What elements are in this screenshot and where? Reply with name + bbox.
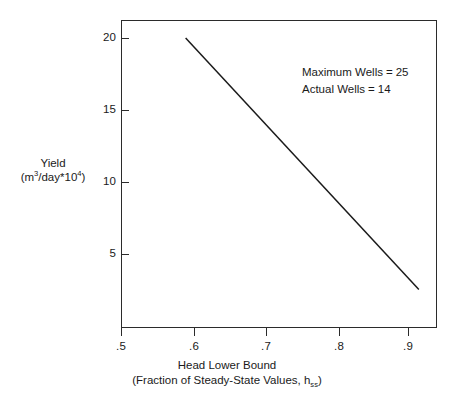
y-tick-15: [121, 110, 129, 111]
x-axis-title-line2: (Fraction of Steady-State Values, hss): [0, 373, 454, 388]
y-tick-label-20: 20: [82, 32, 116, 44]
annotation-value-maximum-wells: 25: [396, 66, 409, 78]
y-axis-title: Yield (m3/day*104): [6, 156, 100, 184]
x-tick-0.7: [266, 328, 267, 336]
x-tick-label-0.6: .6: [174, 340, 214, 352]
x-tick-label-0.8: .8: [319, 340, 359, 352]
x-axis-title-subscript: ss: [310, 380, 318, 389]
y-tick-label-20-wrap: 20: [82, 32, 116, 44]
annotation-operator-actual-wells: =: [365, 83, 378, 95]
chart-annotation: Maximum Wells=25 Actual Wells=14: [302, 64, 408, 98]
x-tick-0.9: [408, 328, 409, 336]
y-tick-label-15: 15: [82, 104, 116, 116]
annotation-operator-maximum-wells: =: [383, 66, 396, 78]
annotation-label-actual-wells: Actual Wells: [302, 83, 365, 95]
y-axis-title-line1: Yield: [6, 156, 100, 170]
x-axis-title-line1: Head Lower Bound: [0, 358, 454, 373]
annotation-row-actual-wells: Actual Wells=14: [302, 81, 408, 98]
x-tick-label-0.9: .9: [388, 340, 428, 352]
x-axis-title-prefix: (Fraction of Steady-State Values, h: [132, 374, 310, 386]
x-axis-title-suffix: ): [318, 374, 322, 386]
y-tick-label-5-wrap: 5: [82, 248, 116, 260]
x-tick-label-0.5: .5: [101, 340, 141, 352]
x-axis-title: Head Lower Bound (Fraction of Steady-Sta…: [0, 358, 454, 388]
annotation-value-actual-wells: 14: [378, 83, 391, 95]
y-axis-unit-prefix: (m: [21, 171, 34, 183]
x-tick-0.8: [339, 328, 340, 336]
y-tick-20: [121, 38, 129, 39]
annotation-label-maximum-wells: Maximum Wells: [302, 66, 383, 78]
y-tick-label-15-wrap: 15: [82, 104, 116, 116]
y-axis-unit-suffix: ): [82, 171, 86, 183]
y-axis-unit-mid: /day*10: [38, 171, 77, 183]
chart-figure: 20 15 10 5 .5 .6 .7 .8 .9 Yield (m3/day*…: [0, 0, 454, 394]
y-tick-5: [121, 254, 129, 255]
x-tick-0.6: [194, 328, 195, 336]
x-tick-0.5: [121, 328, 122, 336]
y-tick-10: [121, 182, 129, 183]
y-tick-label-5: 5: [82, 248, 116, 260]
annotation-row-maximum-wells: Maximum Wells=25: [302, 64, 408, 81]
x-tick-label-0.7: .7: [246, 340, 286, 352]
y-axis-title-line2: (m3/day*104): [6, 170, 100, 184]
